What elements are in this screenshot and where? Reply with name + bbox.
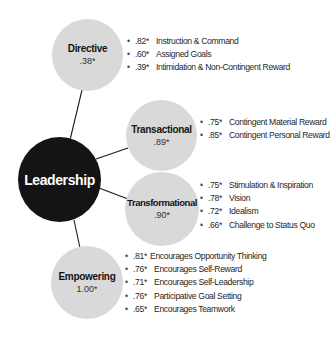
node-empowering: Empowering 1.00* [51, 246, 123, 319]
item-score: .39* [135, 61, 156, 74]
item-score: .66* [208, 219, 229, 232]
item-score: .78* [208, 192, 229, 205]
node-value: .90* [154, 209, 170, 221]
item-label: Encourages Self-Leadership [154, 276, 253, 289]
bullet-icon: • [125, 290, 133, 303]
item-label: Encourages Self-Reward [154, 263, 242, 276]
item-label: Stimulation & Inspiration [229, 179, 313, 192]
item-label: Intimidation & Non-Contingent Reward [156, 61, 290, 74]
directive-item-list: •.82*Instruction & Command •.60*Assigned… [127, 35, 290, 75]
list-item: •.78*Vision [200, 192, 315, 205]
item-label: Participative Goal Setting [154, 290, 241, 303]
list-item: •.75*Stimulation & Inspiration [200, 179, 315, 192]
connector-empowering [74, 220, 80, 248]
connector-transactional [96, 148, 128, 159]
item-label: Contingent Personal Reward [229, 129, 330, 142]
transformational-item-list: •.75*Stimulation & Inspiration •.78*Visi… [200, 179, 315, 232]
item-label: Idealism [229, 205, 258, 218]
list-item: •.66*Challenge to Status Quo [200, 219, 315, 232]
node-leadership: Leadership [18, 137, 101, 222]
connector-directive [70, 90, 82, 140]
list-item: •.76*Participative Goal Setting [125, 290, 267, 303]
bullet-icon: • [200, 219, 208, 232]
node-transactional: Transactional .89* [126, 100, 197, 171]
list-item: •.60*Assigned Goals [127, 48, 290, 61]
node-value: .38* [79, 55, 95, 67]
item-label: Vision [229, 192, 250, 205]
list-item: •.76*Encourages Self-Reward [125, 263, 267, 276]
node-title: Directive [68, 43, 108, 55]
bullet-icon: • [125, 250, 133, 263]
item-score: .75* [208, 179, 229, 192]
bullet-icon: • [200, 192, 208, 205]
node-directive: Directive .38* [52, 19, 123, 91]
bullet-icon: • [125, 303, 133, 316]
bullet-icon: • [200, 205, 208, 218]
list-item: •.75*Contingent Material Reward [200, 116, 330, 129]
bullet-icon: • [200, 129, 208, 142]
list-item: •.39*Intimidation & Non-Contingent Rewar… [127, 61, 290, 74]
transactional-item-list: •.75*Contingent Material Reward •.85*Con… [200, 116, 330, 142]
item-label: Encourages Opportunity Thinking [150, 250, 267, 263]
item-score: .76* [133, 263, 154, 276]
list-item: •.72*Idealism [200, 205, 315, 218]
item-score: .81* [133, 250, 150, 263]
node-title: Transactional [131, 124, 192, 136]
node-transformational: Transformational .90* [125, 172, 199, 246]
item-label: Contingent Material Reward [229, 116, 326, 129]
bullet-icon: • [127, 61, 135, 74]
item-score: .65* [133, 303, 154, 316]
list-item: •.85*Contingent Personal Reward [200, 129, 330, 142]
node-title: Empowering [58, 271, 115, 283]
item-score: .72* [208, 205, 229, 218]
item-score: .71* [133, 276, 154, 289]
item-label: Challenge to Status Quo [229, 219, 315, 232]
bullet-icon: • [200, 116, 208, 129]
node-value: .89* [153, 136, 169, 148]
list-item: •.71*Encourages Self-Leadership [125, 276, 267, 289]
bullet-icon: • [127, 48, 135, 61]
item-label: Encourages Teamwork [154, 303, 235, 316]
node-value: 1.00* [76, 283, 97, 295]
connector-transformational [99, 188, 128, 199]
list-item: •.81*Encourages Opportunity Thinking [125, 250, 267, 263]
list-item: •.82*Instruction & Command [127, 35, 290, 48]
empowering-item-list: •.81*Encourages Opportunity Thinking •.7… [125, 250, 267, 316]
list-item: •.65*Encourages Teamwork [125, 303, 267, 316]
bullet-icon: • [125, 276, 133, 289]
item-label: Instruction & Command [156, 35, 238, 48]
item-score: .82* [135, 35, 156, 48]
item-label: Assigned Goals [156, 48, 211, 61]
item-score: .76* [133, 290, 154, 303]
bullet-icon: • [125, 263, 133, 276]
item-score: .60* [135, 48, 156, 61]
item-score: .75* [208, 116, 229, 129]
node-title: Transformational [127, 197, 197, 209]
bullet-icon: • [127, 35, 135, 48]
center-title: Leadership [24, 174, 95, 186]
bullet-icon: • [200, 179, 208, 192]
item-score: .85* [208, 129, 229, 142]
